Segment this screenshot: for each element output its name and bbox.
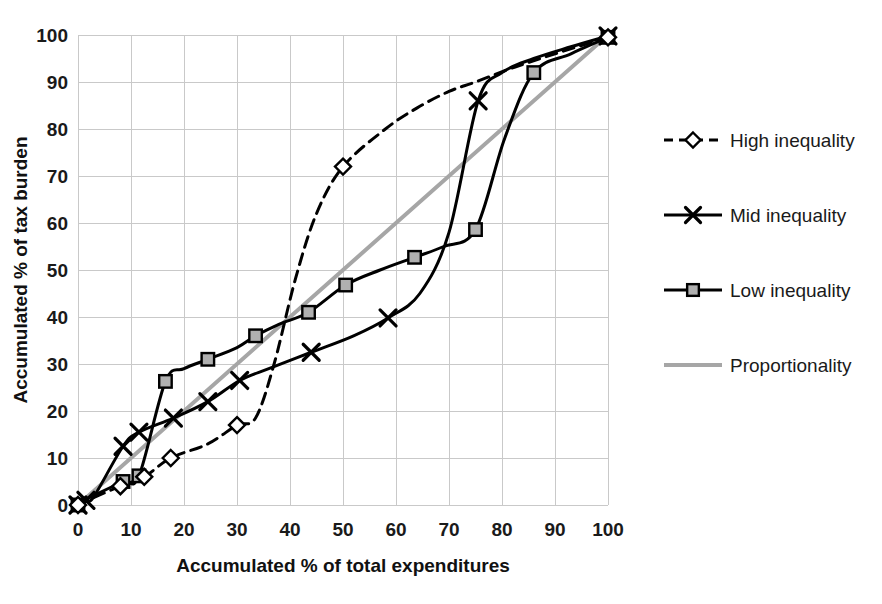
data-point-marker-legend (687, 284, 699, 296)
x-tick-label: 40 (279, 519, 300, 540)
legend-label: Mid inequality (730, 205, 847, 226)
data-point-marker-low-inequality (249, 330, 261, 342)
chart-background (0, 0, 882, 604)
x-tick-label: 30 (226, 519, 247, 540)
data-point-marker-low-inequality (159, 375, 171, 387)
y-tick-label: 70 (47, 166, 68, 187)
x-tick-label: 10 (120, 519, 141, 540)
data-point-marker-low-inequality (302, 306, 314, 318)
y-tick-label: 80 (47, 119, 68, 140)
y-tick-label: 90 (47, 72, 68, 93)
legend-label: High inequality (730, 130, 855, 151)
x-tick-label: 70 (438, 519, 459, 540)
data-point-marker-low-inequality (339, 279, 351, 291)
x-tick-label: 50 (332, 519, 353, 540)
y-tick-label: 30 (47, 354, 68, 375)
x-tick-label: 60 (385, 519, 406, 540)
y-tick-label: 0 (57, 495, 68, 516)
data-point-marker-low-inequality (408, 251, 420, 263)
chart-container: 0102030405060708090100 01020304050607080… (0, 0, 882, 604)
y-tick-label: 60 (47, 213, 68, 234)
legend-label: Low inequality (730, 280, 851, 301)
data-point-marker-low-inequality (469, 223, 481, 235)
y-axis-title: Accumulated % of tax burden (10, 136, 31, 403)
legend-item-high-inequality[interactable]: High inequality (664, 130, 855, 151)
legend-label: Proportionality (730, 355, 852, 376)
y-tick-label: 20 (47, 401, 68, 422)
y-tick-label: 100 (36, 25, 68, 46)
concentration-curve-chart: 0102030405060708090100 01020304050607080… (0, 0, 882, 604)
x-tick-label: 0 (73, 519, 84, 540)
x-tick-label: 90 (544, 519, 565, 540)
x-axis-title: Accumulated % of total expenditures (176, 555, 510, 576)
y-tick-label: 40 (47, 307, 68, 328)
x-tick-label: 100 (592, 519, 624, 540)
data-point-marker-low-inequality (202, 353, 214, 365)
y-tick-label: 50 (47, 260, 68, 281)
y-tick-label: 10 (47, 448, 68, 469)
x-tick-label: 20 (173, 519, 194, 540)
data-point-marker-low-inequality (528, 66, 540, 78)
x-tick-label: 80 (491, 519, 512, 540)
